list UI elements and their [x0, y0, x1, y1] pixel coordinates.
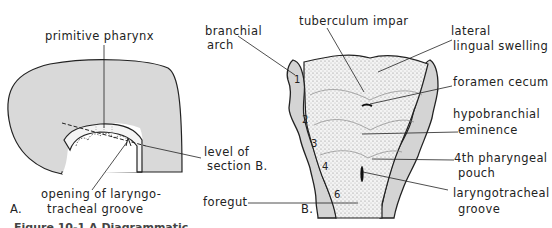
arch-number-4: 4: [322, 160, 329, 173]
arch-number-2: 2: [302, 113, 309, 126]
label-branchial-line2: arch: [207, 39, 234, 52]
arch-number-3: 3: [311, 137, 318, 150]
panel-b-marker: B.: [301, 203, 313, 216]
label-lateral-line2: lingual swelling: [453, 40, 548, 53]
label-opening-line2: tracheal groove: [47, 203, 144, 216]
label-level-of: level of: [204, 146, 249, 159]
label-section-b: section B.: [207, 160, 268, 173]
label-foramen-cecum: foramen cecum: [453, 76, 549, 89]
label-tuberculum-impar: tuberculum impar: [299, 15, 408, 28]
label-branchial-line1: branchial: [205, 25, 262, 38]
panel-a-embryo: [8, 45, 201, 190]
label-hypobranchial-line1: hypobranchial: [453, 108, 540, 121]
label-primitive-pharynx: primitive pharynx: [45, 30, 154, 43]
label-foregut: foregut: [203, 196, 248, 209]
figure: primitive pharynx level of section B. op…: [0, 0, 552, 228]
label-pouch-line1: 4th pharyngeal: [454, 152, 547, 165]
label-hypobranchial-line2: eminence: [458, 124, 518, 137]
label-laryngotracheal-line2: groove: [458, 203, 500, 216]
panel-a-marker: A.: [10, 203, 22, 216]
label-lateral-line1: lateral: [451, 25, 491, 38]
arch-number-1: 1: [294, 73, 301, 86]
label-pouch-line2: pouch: [458, 167, 495, 180]
figure-caption-fragment: Figure 10-1 A Diagrammatic ...: [14, 221, 205, 228]
panel-b-floor: [238, 28, 458, 218]
label-laryngotracheal-line1: laryngotracheal: [453, 187, 550, 200]
label-opening-line1: opening of laryngo-: [41, 188, 161, 201]
arch-number-6: 6: [334, 188, 341, 201]
